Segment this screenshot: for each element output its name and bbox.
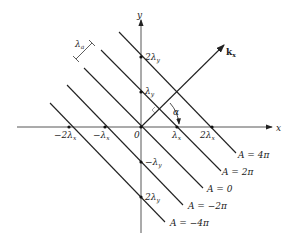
phase-line-0 bbox=[84, 68, 203, 188]
y-tick-1: λy bbox=[144, 86, 155, 98]
x-tick-neg1: −λx bbox=[93, 130, 110, 141]
y-tick-2: 2λy bbox=[144, 52, 160, 64]
phase-label-neg2pi: A = −2π bbox=[187, 201, 228, 211]
phase-label-4pi: A = 4π bbox=[237, 150, 270, 160]
origin-label: 0 bbox=[134, 130, 140, 140]
x-tick-1: λx bbox=[171, 130, 182, 141]
y-tick-neg1: −λy bbox=[145, 157, 162, 169]
wave-diagram: y x 0 −2λx −λx λx 2λx 2λy λy −λy 2λy kx … bbox=[0, 0, 289, 244]
phase-line-2pi bbox=[101, 50, 221, 171]
right-angle-mark bbox=[152, 107, 155, 113]
x-tick-neg2: −2λx bbox=[54, 130, 77, 141]
wavevector-label: kx bbox=[226, 47, 236, 58]
x-tick-2: 2λx bbox=[199, 130, 215, 141]
phase-label-2pi: A = 2π bbox=[221, 167, 254, 177]
x-axis-label: x bbox=[276, 123, 281, 133]
phase-label-0: A = 0 bbox=[206, 184, 233, 194]
phase-label-neg4pi: A = −4π bbox=[169, 218, 210, 228]
y-axis-label: y bbox=[136, 10, 143, 20]
angle-label: α bbox=[173, 107, 179, 117]
wavelength-label: λa bbox=[74, 39, 85, 50]
